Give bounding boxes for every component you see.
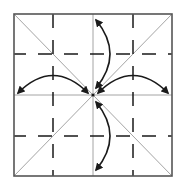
center-point [91, 93, 94, 96]
origami-diagram [0, 0, 183, 189]
